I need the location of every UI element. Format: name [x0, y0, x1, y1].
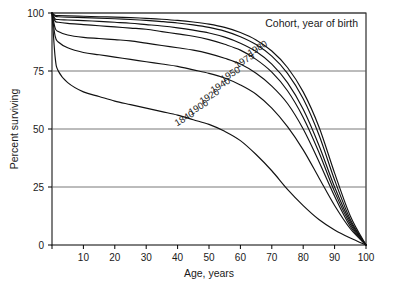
x-tick-label-90: 90 [329, 252, 341, 263]
chart-title: Cohort, year of birth [265, 17, 358, 29]
x-tick-label-60: 60 [235, 252, 247, 263]
x-tick-label-70: 70 [266, 252, 278, 263]
x-axis-title: Age, years [184, 267, 234, 279]
x-tick-label-40: 40 [172, 252, 184, 263]
survival-curve-figure: 102030405060708090100 0255075100 1840190… [0, 0, 413, 295]
x-tick-label-50: 50 [203, 252, 215, 263]
x-tick-label-10: 10 [78, 252, 90, 263]
y-axis-title: Percent surviving [8, 89, 20, 170]
x-tick-label-20: 20 [109, 252, 121, 263]
y-axis-ticks: 0255075100 [27, 8, 52, 251]
x-tick-label-100: 100 [358, 252, 375, 263]
series-labels: 1840190019201940195019751980 [172, 38, 269, 128]
x-axis-ticks: 102030405060708090100 [52, 245, 375, 263]
x-tick-label-80: 80 [298, 252, 310, 263]
y-tick-label-50: 50 [33, 124, 45, 135]
y-tick-label-0: 0 [38, 240, 44, 251]
y-tick-label-25: 25 [33, 182, 45, 193]
chart-canvas: 102030405060708090100 0255075100 1840190… [0, 0, 413, 295]
y-tick-label-75: 75 [33, 66, 45, 77]
y-tick-label-100: 100 [27, 8, 44, 19]
x-tick-label-30: 30 [141, 252, 153, 263]
